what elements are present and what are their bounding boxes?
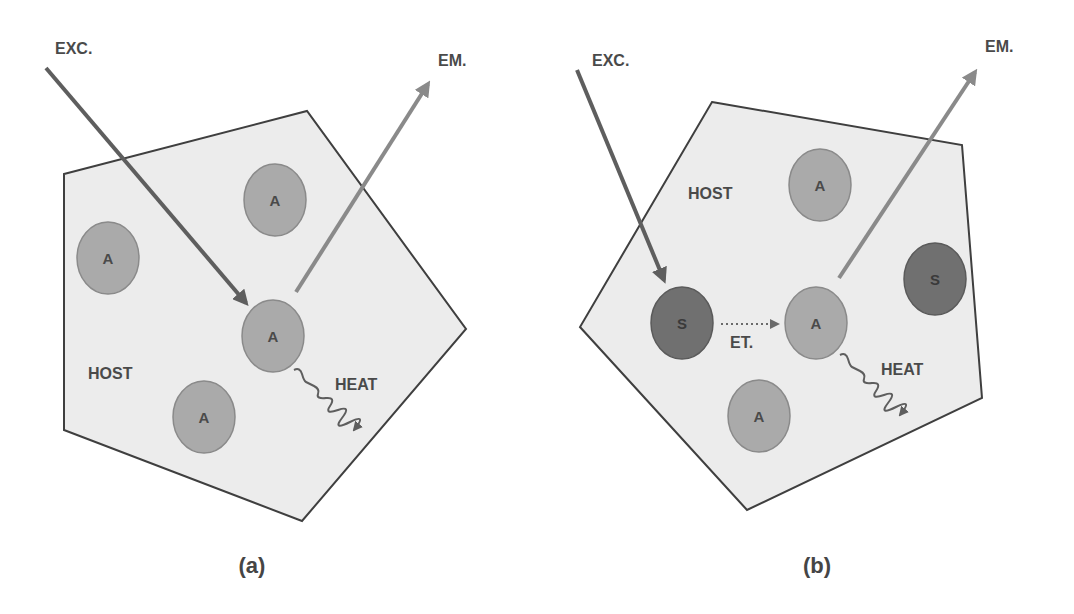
et-label: ET. xyxy=(730,334,753,351)
activator-ion-central: A xyxy=(785,287,847,359)
svg-text:S: S xyxy=(677,315,687,332)
svg-text:A: A xyxy=(103,250,114,267)
svg-text:A: A xyxy=(811,315,822,332)
host-label-b: HOST xyxy=(688,185,733,202)
excitation-arrow-b xyxy=(577,70,664,280)
sensitizer-ion: S xyxy=(904,243,966,315)
activator-ion: A xyxy=(728,380,790,452)
caption-a: (a) xyxy=(239,553,266,578)
activator-ion: A xyxy=(244,164,306,236)
svg-text:A: A xyxy=(199,409,210,426)
activator-ion: A xyxy=(789,149,851,221)
activator-ion: A xyxy=(77,222,139,294)
caption-b: (b) xyxy=(803,553,831,578)
exc-label-b: EXC. xyxy=(592,52,629,69)
svg-text:A: A xyxy=(268,328,279,345)
em-label-a: EM. xyxy=(438,52,466,69)
svg-text:A: A xyxy=(754,408,765,425)
svg-text:A: A xyxy=(270,192,281,209)
svg-text:A: A xyxy=(815,177,826,194)
heat-label-b: HEAT xyxy=(881,361,924,378)
panel-a: EXC. EM. HOST HEAT A A A A (a) xyxy=(46,40,466,578)
activator-ion-central: A xyxy=(242,300,304,372)
host-label-a: HOST xyxy=(88,365,133,382)
activator-ion: A xyxy=(173,381,235,453)
diagram-canvas: EXC. EM. HOST HEAT A A A A (a) EXC. EM. xyxy=(0,0,1074,614)
panel-b: EXC. EM. HOST HEAT ET. A S S A A xyxy=(577,38,1013,578)
exc-label-a: EXC. xyxy=(55,40,92,57)
em-label-b: EM. xyxy=(985,38,1013,55)
svg-text:S: S xyxy=(930,271,940,288)
heat-label-a: HEAT xyxy=(335,376,378,393)
sensitizer-ion-excited: S xyxy=(651,287,713,359)
